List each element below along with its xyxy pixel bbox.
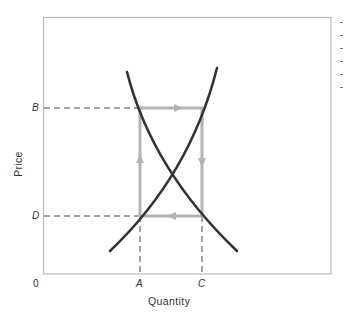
adjustment-cycle [136,104,206,220]
price-d-label: D [32,210,39,221]
quantity-c-label: C [198,278,205,289]
price-b-label: B [32,102,39,113]
diagram-canvas [0,0,346,323]
y-axis-label: Price [12,144,24,184]
demand-curve [127,72,237,251]
arrow-right-icon [174,104,183,112]
supply-demand-diagram: B D 0 A C Price Quantity [0,0,346,323]
cropped-margin-text [340,22,344,100]
arrow-left-icon [167,212,176,220]
origin-label: 0 [33,278,39,289]
x-axis-label: Quantity [148,295,190,307]
arrow-up-icon [136,154,144,163]
arrow-down-icon [198,158,206,167]
quantity-a-label: A [136,278,143,289]
